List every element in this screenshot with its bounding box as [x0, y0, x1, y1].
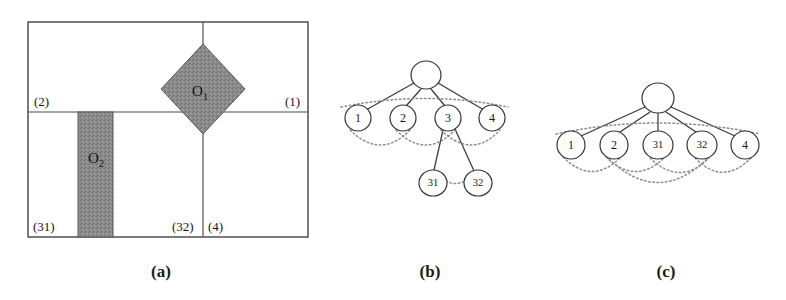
node-4[interactable]: 4 [731, 131, 759, 159]
panel-c: 1 2 31 32 4 (c) [556, 83, 760, 281]
node-2-label: 2 [611, 138, 617, 152]
edge-root-2 [406, 89, 421, 106]
node-1-label: 1 [355, 111, 361, 125]
node-3[interactable]: 3 [435, 105, 461, 131]
panel-c-caption: (c) [657, 262, 676, 281]
arc-2-3 [396, 130, 455, 145]
node-32[interactable]: 32 [687, 131, 717, 159]
edge-3-32 [455, 129, 474, 171]
arc-3-4 [441, 130, 500, 145]
node-root[interactable] [642, 83, 674, 113]
node-4[interactable]: 4 [479, 105, 505, 131]
node-31[interactable]: 31 [643, 131, 673, 159]
arc-1-2 [350, 130, 410, 145]
node-32-label: 32 [473, 177, 484, 188]
region-label-1: (1) [285, 94, 300, 109]
node-31[interactable]: 31 [419, 170, 447, 196]
node-1[interactable]: 1 [557, 131, 585, 159]
arc-root-span [341, 99, 508, 108]
object-o1-subscript: 1 [203, 91, 208, 102]
object-o1-letter: O [192, 83, 203, 99]
region-label-2: (2) [34, 94, 49, 109]
object-o2-subscript: 2 [99, 158, 104, 169]
node-1[interactable]: 1 [345, 105, 371, 131]
node-3-label: 3 [445, 111, 451, 125]
node-1-label: 1 [568, 138, 574, 152]
edge-root-32 [666, 112, 696, 132]
edge-3-31 [434, 130, 443, 170]
panel-a: O2 O1 (2) (1) (31) (32) (4) (a) [28, 22, 308, 281]
region-label-31: (31) [33, 219, 55, 234]
region-label-32: (32) [172, 219, 194, 234]
node-2[interactable]: 2 [600, 131, 628, 159]
node-root-circle[interactable] [642, 83, 674, 113]
node-4-label: 4 [742, 138, 748, 152]
arc-31-32 [446, 181, 465, 184]
object-o1 [161, 44, 245, 134]
figure-canvas: O2 O1 (2) (1) (31) (32) (4) (a) [0, 0, 786, 300]
panel-b-caption: (b) [420, 262, 441, 281]
node-2-label: 2 [400, 111, 406, 125]
object-o2 [78, 112, 113, 237]
region-label-4: (4) [208, 219, 223, 234]
edge-root-3 [431, 89, 445, 106]
node-32-label: 32 [697, 139, 708, 150]
figure-root: O2 O1 (2) (1) (31) (32) (4) (a) [0, 0, 786, 300]
edge-root-2 [620, 112, 650, 132]
node-32[interactable]: 32 [464, 170, 492, 196]
panel-b: 1 2 3 4 31 32 [341, 61, 508, 281]
node-2[interactable]: 2 [390, 105, 416, 131]
node-4-label: 4 [489, 111, 495, 125]
node-root-circle[interactable] [411, 61, 441, 89]
panel-a-frame [28, 22, 308, 237]
node-31-label: 31 [428, 177, 439, 188]
node-root[interactable] [411, 61, 441, 89]
object-o2-letter: O [88, 150, 99, 166]
panel-a-caption: (a) [151, 262, 171, 281]
node-31-label: 31 [653, 139, 664, 150]
